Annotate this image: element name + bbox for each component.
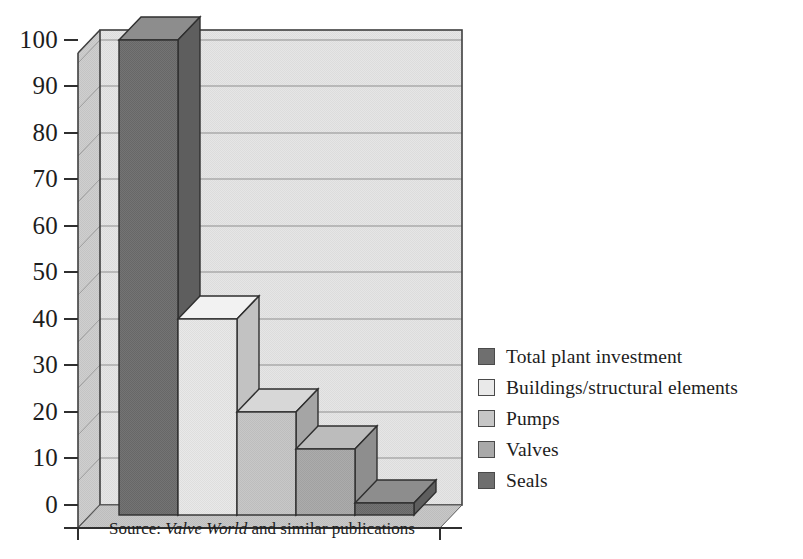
y-tick-90: 90	[6, 73, 58, 98]
y-tick-0: 0	[6, 492, 58, 517]
y-tick-100: 100	[6, 27, 58, 52]
legend-label: Buildings/structural elements	[506, 377, 738, 398]
legend-label: Valves	[506, 439, 559, 460]
legend-swatch-icon	[478, 348, 495, 365]
legend-label: Total plant investment	[506, 346, 682, 367]
source-caption: Source: Valve World and similar publicat…	[60, 519, 464, 539]
legend-item-total-plant-investment[interactable]: Total plant investment	[478, 341, 798, 372]
y-tick-30: 30	[6, 352, 58, 377]
chart-legend: Total plant investment Buildings/structu…	[478, 341, 798, 496]
y-tick-70: 70	[6, 166, 58, 191]
y-tick-40: 40	[6, 306, 58, 331]
left-wall	[78, 30, 100, 528]
chart-figure: 100 90 80 70 60 50 40 30 20 10 0 Total p…	[0, 0, 803, 559]
y-tick-10: 10	[6, 445, 58, 470]
legend-item-seals[interactable]: Seals	[478, 465, 798, 496]
y-tick-50: 50	[6, 259, 58, 284]
source-prefix: Source:	[109, 519, 165, 538]
y-axis-tick-labels: 100 90 80 70 60 50 40 30 20 10 0	[0, 0, 58, 559]
source-suffix: and similar publications	[247, 519, 415, 538]
legend-swatch-icon	[478, 379, 495, 396]
legend-swatch-icon	[478, 441, 495, 458]
legend-swatch-icon	[478, 472, 495, 489]
y-tick-20: 20	[6, 399, 58, 424]
y-tick-60: 60	[6, 213, 58, 238]
legend-item-buildings-structural-elements[interactable]: Buildings/structural elements	[478, 372, 798, 403]
legend-swatch-icon	[478, 410, 495, 427]
legend-label: Seals	[506, 470, 548, 491]
legend-label: Pumps	[506, 408, 560, 429]
legend-item-valves[interactable]: Valves	[478, 434, 798, 465]
source-publication: Valve World	[165, 519, 247, 538]
y-tick-80: 80	[6, 120, 58, 145]
y-axis-ticks	[64, 40, 78, 528]
legend-item-pumps[interactable]: Pumps	[478, 403, 798, 434]
